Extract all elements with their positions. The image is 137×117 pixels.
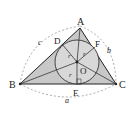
label-r-1: r [68,52,71,60]
label-r-3: r [69,71,72,79]
label-b: B [9,79,16,90]
center-point [76,61,79,64]
label-d: D [54,36,61,46]
label-side-c: c [38,38,42,47]
diagram-canvas: A B C D E F O r r r c b a [0,0,137,117]
label-r-2: r [83,50,86,58]
label-side-b: b [107,46,111,55]
label-e: E [73,88,79,98]
label-side-a: a [65,96,69,105]
vertex-b-point [19,83,21,85]
label-o: O [80,66,87,76]
label-c: C [119,79,126,90]
vertex-c-point [115,83,117,85]
incircle-diagram: A B C D E F O r r r c b a [0,0,137,117]
label-f: F [95,39,100,49]
label-a: A [77,16,85,27]
